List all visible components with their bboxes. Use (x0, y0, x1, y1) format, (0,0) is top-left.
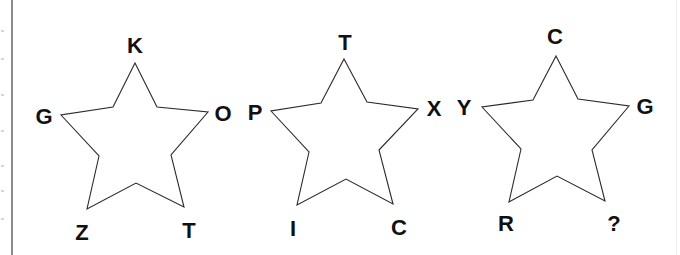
star-2-outline (271, 59, 418, 205)
star-1-label-bottom-right: T (182, 218, 196, 243)
star-1-label-top: K (127, 33, 143, 58)
star-1-label-right: O (214, 101, 231, 126)
star-puzzle-diagram: K G O Z T T P X I C C Y G R ? (0, 0, 680, 255)
star-3-label-top: C (547, 24, 563, 49)
star-2-label-top: T (338, 30, 352, 55)
star-1-label-bottom-left: Z (75, 220, 88, 245)
star-1-outline (61, 63, 208, 209)
star-2-label-bottom-right: C (391, 215, 407, 240)
star-2: T P X I C (248, 30, 442, 241)
star-3-label-right: G (636, 94, 653, 119)
star-1-label-left: G (35, 104, 52, 129)
star-3-outline (482, 56, 629, 202)
star-2-label-right: X (427, 96, 442, 121)
star-1: K G O Z T (35, 33, 231, 245)
star-2-label-left: P (248, 100, 263, 125)
star-3-label-left: Y (457, 95, 472, 120)
star-3-label-bottom-right: ? (607, 211, 620, 236)
star-3-label-bottom-left: R (498, 211, 514, 236)
star-3: C Y G R ? (457, 24, 654, 236)
star-2-label-bottom-left: I (290, 216, 296, 241)
